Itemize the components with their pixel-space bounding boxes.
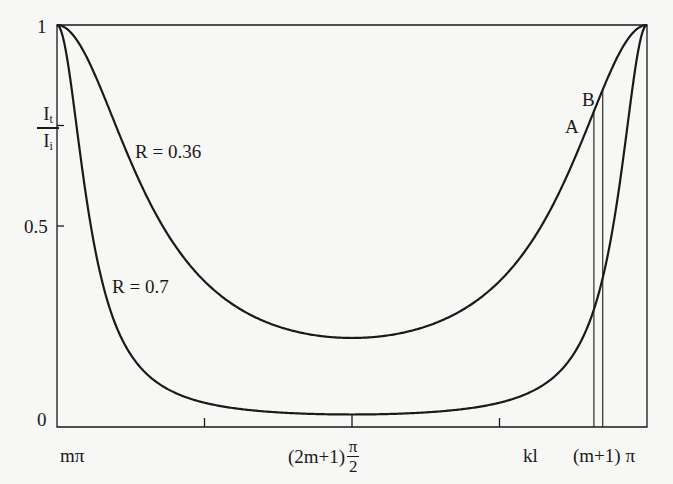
curves (57, 25, 647, 414)
series-label-r036: R = 0.36 (135, 142, 201, 161)
x-label-m-pi: mπ (60, 446, 84, 465)
y-tick-label-0: 0 (37, 410, 47, 429)
y-label-denominator: Ii (43, 131, 53, 152)
y-label-numerator: It (43, 104, 53, 125)
y-tick-label-0-5: 0.5 (24, 217, 48, 236)
series-label-r07: R = 0.7 (112, 277, 169, 296)
x-axis-label-kl: kl (523, 446, 538, 465)
y-axis-label: It Ii (37, 104, 59, 152)
x-label-center-prefix: (2m+1) (288, 446, 345, 467)
y-tick-label-1: 1 (37, 17, 47, 36)
plot-area (0, 0, 673, 484)
curve-r07 (57, 25, 647, 414)
axis-frame (57, 25, 647, 427)
x-label-m-plus-1-pi: (m+1) π (573, 446, 635, 465)
annotation-a: A (565, 117, 579, 136)
axes (57, 25, 647, 427)
fraction-bar (37, 127, 59, 129)
pi-over-2: π2 (347, 438, 359, 475)
x-label-center: (2m+1)π2 (288, 438, 359, 475)
annotation-b: B (582, 90, 595, 109)
